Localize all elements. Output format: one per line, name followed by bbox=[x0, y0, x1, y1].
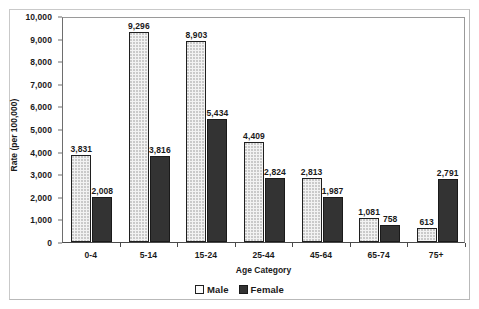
bar-value-label: 2,791 bbox=[437, 168, 459, 178]
y-tick-label: 9,000 bbox=[30, 35, 52, 45]
bar-group: 6132,791 bbox=[417, 18, 458, 242]
bar-female-5-14[interactable]: 3,816 bbox=[150, 156, 170, 242]
bar-female-15-24[interactable]: 5,434 bbox=[207, 119, 227, 242]
x-tick-label-75+: 75+ bbox=[429, 250, 444, 260]
x-tick-mark bbox=[292, 243, 293, 247]
bar-value-label: 1,987 bbox=[322, 186, 344, 196]
bar-group: 8,9035,434 bbox=[186, 18, 227, 242]
x-tick-mark bbox=[465, 243, 466, 247]
bar-value-label: 758 bbox=[383, 214, 397, 224]
plot-area: 3,8312,0089,2963,8168,9035,4344,4092,824… bbox=[62, 17, 465, 243]
bar-male-0-4[interactable]: 3,831 bbox=[71, 155, 91, 242]
y-tick-label: 7,000 bbox=[30, 80, 52, 90]
bar-male-15-24[interactable]: 8,903 bbox=[186, 41, 206, 242]
legend-entry-male[interactable]: Male bbox=[195, 284, 229, 295]
y-tick-label: 3,000 bbox=[30, 170, 52, 180]
legend-entry-female[interactable]: Female bbox=[239, 284, 284, 295]
bar-value-label: 2,813 bbox=[301, 167, 323, 177]
x-tick-mark bbox=[177, 243, 178, 247]
y-tick-label: 5,000 bbox=[30, 125, 52, 135]
bar-value-label: 3,816 bbox=[149, 145, 171, 155]
chart-legend: MaleFemale bbox=[0, 284, 479, 295]
y-tick-label: 6,000 bbox=[30, 102, 52, 112]
y-tick-label: 2,000 bbox=[30, 193, 52, 203]
y-tick-label: 1,000 bbox=[30, 215, 52, 225]
bar-value-label: 2,008 bbox=[91, 186, 113, 196]
bar-group: 2,8131,987 bbox=[302, 18, 343, 242]
x-tick-mark bbox=[407, 243, 408, 247]
bar-male-5-14[interactable]: 9,296 bbox=[129, 32, 149, 242]
bar-male-45-64[interactable]: 2,813 bbox=[302, 178, 322, 242]
bar-value-label: 3,831 bbox=[70, 144, 92, 154]
bar-value-label: 4,409 bbox=[243, 131, 265, 141]
bar-female-65-74[interactable]: 758 bbox=[380, 225, 400, 242]
x-tick-label-15-24: 15-24 bbox=[195, 250, 217, 260]
bar-value-label: 2,824 bbox=[264, 167, 286, 177]
bar-group: 1,081758 bbox=[359, 18, 400, 242]
x-tick-label-65-74: 65-74 bbox=[368, 250, 390, 260]
x-tick-label-0-4: 0-4 bbox=[84, 250, 97, 260]
bar-male-75+[interactable]: 613 bbox=[417, 228, 437, 242]
legend-label: Female bbox=[251, 284, 284, 295]
legend-swatch-male-icon bbox=[195, 285, 204, 294]
x-tick-mark bbox=[350, 243, 351, 247]
bar-female-75+[interactable]: 2,791 bbox=[438, 179, 458, 242]
x-tick-label-25-44: 25-44 bbox=[252, 250, 274, 260]
bar-group: 9,2963,816 bbox=[129, 18, 170, 242]
bar-female-0-4[interactable]: 2,008 bbox=[92, 197, 112, 242]
bar-value-label: 5,434 bbox=[207, 108, 229, 118]
bar-female-25-44[interactable]: 2,824 bbox=[265, 178, 285, 242]
y-tick-label: 0 bbox=[47, 238, 52, 248]
y-axis-title: Rate (per 100,000) bbox=[9, 60, 19, 210]
bar-group: 4,4092,824 bbox=[244, 18, 285, 242]
bar-value-label: 1,081 bbox=[358, 207, 380, 217]
bar-value-label: 613 bbox=[419, 217, 433, 227]
bar-male-65-74[interactable]: 1,081 bbox=[359, 218, 379, 242]
bar-group: 3,8312,008 bbox=[71, 18, 112, 242]
bar-female-45-64[interactable]: 1,987 bbox=[323, 197, 343, 242]
x-axis-title: Age Category bbox=[62, 265, 465, 275]
x-tick-label-5-14: 5-14 bbox=[140, 250, 157, 260]
legend-swatch-female-icon bbox=[239, 285, 248, 294]
y-tick-label: 8,000 bbox=[30, 57, 52, 67]
x-tick-mark bbox=[120, 243, 121, 247]
bar-value-label: 9,296 bbox=[128, 21, 150, 31]
bar-value-label: 8,903 bbox=[186, 30, 208, 40]
bar-male-25-44[interactable]: 4,409 bbox=[244, 142, 264, 242]
x-tick-label-45-64: 45-64 bbox=[310, 250, 332, 260]
chart-figure: 01,0002,0003,0004,0005,0006,0007,0008,00… bbox=[0, 0, 479, 309]
legend-label: Male bbox=[207, 284, 229, 295]
y-tick-label: 10,000 bbox=[25, 12, 52, 22]
x-tick-mark bbox=[235, 243, 236, 247]
y-tick-label: 4,000 bbox=[30, 148, 52, 158]
